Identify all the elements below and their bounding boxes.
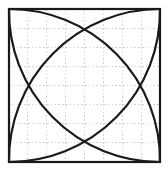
geometry-figure-svg: Square with four corner-centered quarter…: [0, 0, 168, 179]
geometry-figure-container: Square with four corner-centered quarter…: [0, 0, 168, 179]
